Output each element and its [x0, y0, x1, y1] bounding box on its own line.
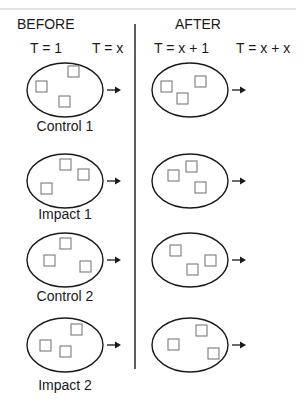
arrowhead-icon	[115, 257, 121, 264]
sample-square	[80, 261, 91, 272]
sample-square	[161, 81, 172, 92]
sample-square	[40, 340, 51, 351]
population-before	[27, 318, 121, 372]
arrowhead-icon	[115, 87, 121, 94]
group-row: Impact 1	[27, 154, 246, 222]
sample-square	[196, 325, 207, 336]
sample-square	[60, 238, 71, 249]
arrowhead-icon	[240, 87, 246, 94]
sample-square	[195, 76, 206, 87]
after-header: AFTER	[175, 16, 221, 32]
sample-square	[168, 339, 179, 350]
population-after	[152, 154, 246, 208]
population-ellipse	[152, 233, 228, 287]
sample-square	[68, 66, 79, 77]
group-rows: Control 1Impact 1Control 2Impact 2	[27, 63, 246, 393]
population-before	[27, 233, 121, 287]
arrowhead-icon	[115, 342, 121, 349]
group-label: Control 1	[37, 118, 94, 134]
sample-square	[170, 245, 181, 256]
sample-square	[36, 81, 47, 92]
time-label-tx-plus-1: T = x + 1	[154, 40, 209, 56]
before-header: BEFORE	[17, 16, 75, 32]
population-after	[152, 63, 246, 117]
sample-square	[195, 182, 206, 193]
population-ellipse	[27, 318, 103, 372]
time-label-tx-plus-x: T = x + x	[236, 40, 290, 56]
arrowhead-icon	[240, 342, 246, 349]
population-ellipse	[152, 318, 228, 372]
population-before	[27, 154, 121, 208]
sample-square	[71, 324, 82, 335]
group-row: Control 2	[27, 233, 246, 304]
sample-square	[44, 255, 55, 266]
arrowhead-icon	[240, 257, 246, 264]
group-row: Control 1	[27, 63, 246, 134]
sample-square	[177, 93, 188, 104]
time-label-tx: T = x	[92, 40, 123, 56]
sample-square	[60, 346, 71, 357]
sample-square	[205, 255, 216, 266]
group-label: Impact 1	[38, 206, 92, 222]
population-after	[152, 318, 246, 372]
group-row: Impact 2	[27, 318, 246, 393]
sample-square	[60, 159, 71, 170]
sample-square	[168, 170, 179, 181]
group-label: Control 2	[37, 288, 94, 304]
sample-square	[59, 96, 70, 107]
population-before	[27, 63, 121, 117]
arrowhead-icon	[115, 178, 121, 185]
sample-square	[187, 264, 198, 275]
sample-square	[41, 183, 52, 194]
sample-square	[78, 169, 89, 180]
sample-square	[208, 348, 219, 359]
arrowhead-icon	[240, 178, 246, 185]
sample-square	[186, 161, 197, 172]
population-after	[152, 233, 246, 287]
group-label: Impact 2	[38, 377, 92, 393]
before-after-control-impact-diagram: BEFORE AFTER T = 1 T = x T = x + 1 T = x…	[0, 0, 306, 404]
time-label-t1: T = 1	[30, 40, 62, 56]
